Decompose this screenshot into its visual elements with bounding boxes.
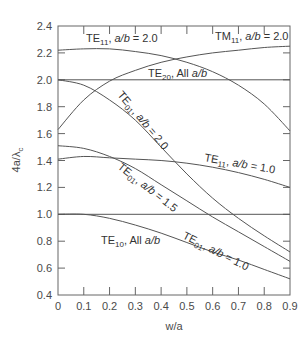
curve-label: TE11, a/b = 1.0 xyxy=(203,151,276,178)
y-tick-label: 1.0 xyxy=(37,208,52,220)
curve-label: TE01, a/b = 1.0 xyxy=(180,229,251,275)
x-tick-label: 0.4 xyxy=(153,300,168,312)
x-tick-label: 0.8 xyxy=(257,300,272,312)
waveguide-cutoff-chart: 00.10.20.30.40.50.60.70.80.90.40.60.81.0… xyxy=(0,0,308,341)
curve-label: TE11, a/b = 2.0 xyxy=(86,32,158,47)
x-tick-label: 0.9 xyxy=(282,300,297,312)
y-tick-label: 2.2 xyxy=(37,47,52,59)
curve-label: TE01, a/b = 2.0 xyxy=(113,89,171,154)
x-tick-label: 0.5 xyxy=(179,300,194,312)
y-tick-label: 1.6 xyxy=(37,128,52,140)
x-tick-label: 0.1 xyxy=(76,300,91,312)
curve-label: TE10, All a/b xyxy=(101,234,160,249)
y-tick-label: 1.8 xyxy=(37,101,52,113)
x-tick-label: 0 xyxy=(55,300,61,312)
curve-label: TM11, a/b = 2.0 xyxy=(215,30,288,45)
curve-te01-a-b-1-0 xyxy=(58,214,290,279)
curve-labels: TE11, a/b = 2.0TM11, a/b = 2.0TE20, All … xyxy=(86,30,288,275)
x-tick-label: 0.6 xyxy=(205,300,220,312)
curve-label: TE01, a/b = 1.5 xyxy=(114,160,180,216)
x-tick-label: 0.3 xyxy=(128,300,143,312)
y-tick-label: 0.4 xyxy=(37,289,52,301)
y-axis-title: 4a/λc xyxy=(10,148,25,173)
y-tick-label: 1.4 xyxy=(37,155,52,167)
y-tick-label: 0.8 xyxy=(37,235,52,247)
x-tick-label: 0.7 xyxy=(231,300,246,312)
y-tick-label: 0.6 xyxy=(37,262,52,274)
y-tick-label: 2.4 xyxy=(37,20,52,32)
y-tick-label: 2.0 xyxy=(37,74,52,86)
x-tick-label: 0.2 xyxy=(102,300,117,312)
x-axis-title: w/a xyxy=(164,320,183,332)
y-tick-label: 1.2 xyxy=(37,181,52,193)
